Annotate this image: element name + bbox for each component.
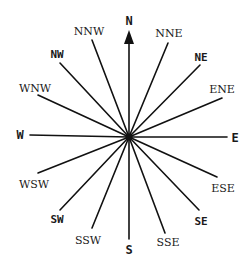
ray-ne (129, 65, 200, 137)
label-nne: NNE (155, 28, 182, 39)
label-ssw: SSW (75, 235, 101, 246)
label-n: N (125, 15, 132, 27)
ray-w (30, 135, 129, 137)
label-s: S (125, 244, 132, 256)
label-ene: ENE (209, 84, 235, 95)
label-ese: ESE (211, 183, 235, 194)
ray-se (129, 137, 199, 210)
ray-ssw (92, 137, 129, 228)
label-se: SE (194, 216, 207, 227)
ray-sw (60, 137, 129, 210)
compass-lines (0, 0, 252, 262)
center-hub (126, 134, 133, 141)
label-nnw: NNW (74, 26, 105, 37)
north-arrow-icon (124, 30, 134, 44)
ray-wsw (38, 137, 129, 173)
label-w: W (16, 129, 23, 141)
label-e: E (231, 132, 238, 144)
compass-rose: NNNENEENEEESESESSESSSWSWWSWWWNWNWNNW (0, 0, 252, 262)
label-wsw: WSW (19, 179, 49, 190)
label-wnw: WNW (19, 83, 51, 94)
label-sse: SSE (157, 237, 180, 248)
ray-nw (60, 63, 129, 137)
label-sw: SW (50, 214, 63, 225)
label-nw: NW (50, 49, 63, 60)
label-ne: NE (194, 52, 207, 63)
